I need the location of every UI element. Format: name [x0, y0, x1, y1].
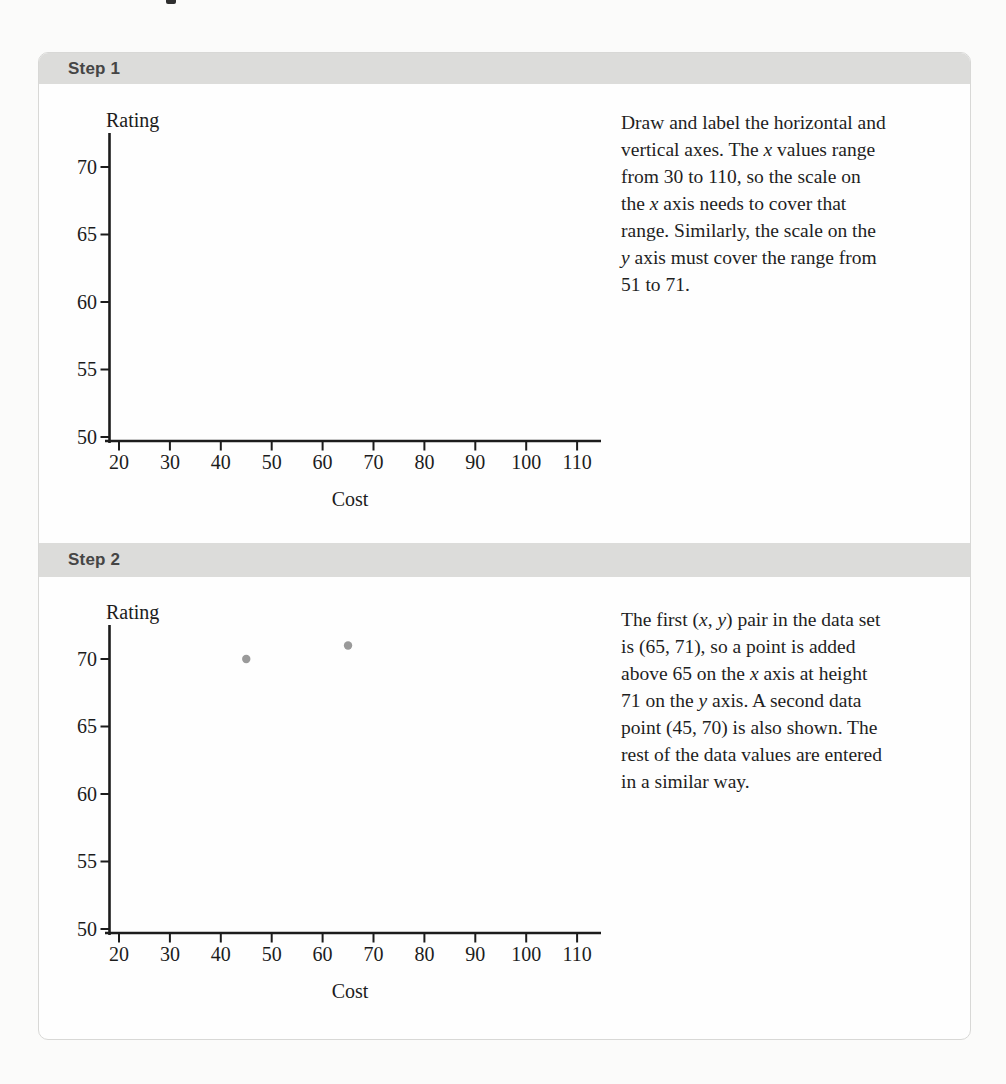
step-2-title: Step 2 [39, 543, 970, 577]
x-tick-label: 20 [109, 943, 129, 965]
text-line: is (65, 71), so a point is added [621, 633, 986, 660]
data-point [344, 641, 352, 649]
x-tick-label: 100 [511, 943, 541, 965]
y-tick-label: 50 [77, 426, 97, 448]
x-tick-label: 50 [262, 943, 282, 965]
text-line: rest of the data values are entered [621, 741, 986, 768]
text-line: in a similar way. [621, 768, 986, 795]
y-tick-label: 65 [77, 223, 97, 245]
text-line: y axis must cover the range from [621, 244, 986, 271]
text-line: point (45, 70) is also shown. The [621, 714, 986, 741]
x-tick-label: 110 [562, 943, 591, 965]
text-line: 51 to 71. [621, 271, 986, 298]
step-1-title: Step 1 [39, 53, 970, 84]
x-tick-label: 90 [465, 451, 485, 473]
step-2-scatter-chart: 50556065702030405060708090100110RatingCo… [60, 597, 620, 1012]
text-line: vertical axes. The x values range [621, 136, 986, 163]
text-line: Draw and label the horizontal and [621, 109, 986, 136]
step-1-scatter-chart: 50556065702030405060708090100110RatingCo… [60, 105, 620, 520]
x-tick-label: 90 [465, 943, 485, 965]
text-line: The first (x, y) pair in the data set [621, 606, 986, 633]
step-1-header-bar: Step 1 [39, 53, 970, 84]
text-line: range. Similarly, the scale on the [621, 217, 986, 244]
y-tick-label: 55 [77, 358, 97, 380]
x-tick-label: 40 [211, 451, 231, 473]
x-tick-label: 60 [313, 943, 333, 965]
y-axis-title: Rating [106, 109, 159, 132]
step-2-header-bar: Step 2 [39, 543, 970, 577]
text-line: 71 on the y axis. A second data [621, 687, 986, 714]
y-tick-label: 60 [77, 783, 97, 805]
y-tick-label: 65 [77, 715, 97, 737]
x-axis-title: Cost [332, 488, 369, 510]
x-tick-label: 80 [414, 943, 434, 965]
x-tick-label: 100 [511, 451, 541, 473]
x-tick-label: 40 [211, 943, 231, 965]
text-line: the x axis needs to cover that [621, 190, 986, 217]
y-tick-label: 70 [77, 156, 97, 178]
data-point [242, 655, 250, 663]
x-tick-label: 80 [414, 451, 434, 473]
x-tick-label: 20 [109, 451, 129, 473]
text-line: from 30 to 110, so the scale on [621, 163, 986, 190]
y-tick-label: 50 [77, 918, 97, 940]
step-2-description: The first (x, y) pair in the data setis … [621, 606, 986, 795]
y-tick-label: 55 [77, 850, 97, 872]
scanned-textbook-page: Step 1 50556065702030405060708090100110R… [0, 0, 1006, 1084]
worked-example-panel: Step 1 50556065702030405060708090100110R… [38, 52, 971, 1040]
cut-off-text-fragment [166, 0, 176, 4]
step-1-description: Draw and label the horizontal andvertica… [621, 109, 986, 298]
x-tick-label: 70 [364, 451, 384, 473]
x-axis-title: Cost [332, 980, 369, 1002]
x-tick-label: 30 [160, 943, 180, 965]
y-tick-label: 70 [77, 648, 97, 670]
x-tick-label: 50 [262, 451, 282, 473]
x-tick-label: 30 [160, 451, 180, 473]
y-axis-title: Rating [106, 601, 159, 624]
y-tick-label: 60 [77, 291, 97, 313]
x-tick-label: 70 [364, 943, 384, 965]
x-tick-label: 110 [562, 451, 591, 473]
x-tick-label: 60 [313, 451, 333, 473]
text-line: above 65 on the x axis at height [621, 660, 986, 687]
